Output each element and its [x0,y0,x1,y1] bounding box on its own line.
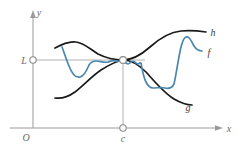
curve-label-f: f [208,47,212,58]
x-axis [10,125,223,131]
curve-g [55,60,192,105]
x-axis-c-marker [120,125,126,131]
figure-container: y x O L c h f g [0,0,237,153]
curve-label-h: h [211,27,216,38]
y-axis-L-marker [30,57,36,63]
origin-label: O [22,132,29,143]
y-axis-label: y [36,7,42,18]
limit-point-marker [120,57,127,64]
squeeze-theorem-figure: y x O L c h f g [0,0,237,153]
x-axis-label: x [226,123,232,134]
limit-label-L: L [20,55,27,66]
curve-label-g: g [186,102,191,113]
y-axis [30,10,36,128]
curve-h [55,31,206,60]
point-label-c: c [121,133,126,144]
